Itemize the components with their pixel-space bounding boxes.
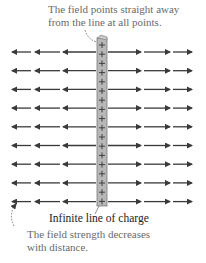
line-of-charge-label: Infinite line of charge bbox=[49, 212, 149, 224]
bottom-annotation-line-1: The field strength decreases bbox=[27, 228, 150, 241]
charged-line-rod bbox=[97, 35, 107, 206]
bottom-leader-line bbox=[11, 204, 16, 226]
top-leader-line bbox=[85, 30, 97, 42]
bottom-annotation-line-2: with distance. bbox=[27, 241, 150, 254]
bottom-annotation: The field strength decreases with distan… bbox=[27, 228, 150, 254]
